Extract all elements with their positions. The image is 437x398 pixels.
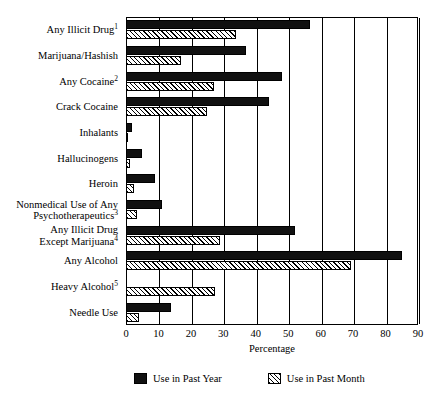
bar-past-month — [126, 133, 128, 142]
x-tick-0: 0 — [123, 328, 128, 339]
bar-past-year — [126, 46, 246, 55]
x-tick-20: 20 — [186, 328, 197, 339]
bar-past-month — [126, 30, 236, 39]
bar-past-month — [126, 287, 215, 296]
bar-row — [126, 120, 418, 146]
bar-row — [126, 299, 418, 325]
x-axis-label: Percentage — [126, 343, 418, 354]
bar-past-month — [126, 56, 181, 65]
legend-label-past-year: Use in Past Year — [153, 373, 222, 384]
legend-label-past-month: Use in Past Month — [287, 373, 365, 384]
category-label: Hallucinogens — [0, 153, 118, 165]
bar-past-month — [126, 82, 214, 91]
bar-row — [126, 274, 418, 300]
x-tick-50: 50 — [283, 328, 294, 339]
bar-past-month — [126, 159, 130, 168]
bar-chart: Any Illicit Drug1Marijuana/HashishAny Co… — [0, 0, 437, 398]
category-label: Needle Use — [0, 307, 118, 319]
category-label: Nonmedical Use of AnyPsychotherapeutics3 — [0, 199, 118, 222]
bar-past-month — [126, 261, 351, 270]
category-label: Heroin — [0, 178, 118, 190]
category-label: Heavy Alcohol5 — [0, 281, 118, 293]
bar-row — [126, 43, 418, 69]
category-label: Any Cocaine2 — [0, 76, 118, 88]
x-axis-ticks: 0102030405060708090 — [126, 326, 418, 342]
category-label: Any Alcohol — [0, 255, 118, 267]
bar-past-year — [126, 200, 162, 209]
category-label: Any Illicit DrugExcept Marijuana4 — [0, 224, 118, 247]
bars-layer — [126, 17, 418, 325]
bar-past-month — [126, 210, 137, 219]
category-label: Any Illicit Drug1 — [0, 24, 118, 36]
bar-row — [126, 68, 418, 94]
legend-item-past-month: Use in Past Month — [268, 373, 365, 384]
bar-row — [126, 222, 418, 248]
gridline-90 — [419, 18, 420, 324]
legend-swatch-solid-icon — [134, 373, 147, 384]
bar-past-year — [126, 174, 155, 183]
bar-row — [126, 248, 418, 274]
bar-past-month — [126, 313, 139, 322]
category-label: Crack Cocaine — [0, 101, 118, 113]
x-tick-70: 70 — [348, 328, 359, 339]
bar-row — [126, 94, 418, 120]
x-tick-40: 40 — [251, 328, 262, 339]
category-labels: Any Illicit Drug1Marijuana/HashishAny Co… — [0, 17, 122, 325]
bar-past-year — [126, 303, 171, 312]
category-label: Marijuana/Hashish — [0, 50, 118, 62]
bar-row — [126, 197, 418, 223]
bar-past-year — [126, 251, 402, 260]
bar-row — [126, 17, 418, 43]
chart-legend: Use in Past Year Use in Past Month — [126, 368, 426, 388]
legend-item-past-year: Use in Past Year — [134, 373, 222, 384]
x-tick-80: 80 — [380, 328, 391, 339]
bar-past-year — [126, 123, 132, 132]
x-tick-90: 90 — [413, 328, 424, 339]
x-tick-30: 30 — [218, 328, 229, 339]
bar-past-month — [126, 184, 134, 193]
x-tick-60: 60 — [315, 328, 326, 339]
x-tick-10: 10 — [153, 328, 164, 339]
bar-row — [126, 145, 418, 171]
bar-past-month — [126, 107, 207, 116]
bar-past-year — [126, 97, 269, 106]
bar-past-year — [126, 226, 295, 235]
legend-swatch-hatched-icon — [268, 373, 281, 384]
bar-past-month — [126, 236, 220, 245]
bar-past-year — [126, 149, 142, 158]
category-label: Inhalants — [0, 127, 118, 139]
bar-past-year — [126, 72, 282, 81]
bar-past-year — [126, 20, 310, 29]
bar-row — [126, 171, 418, 197]
